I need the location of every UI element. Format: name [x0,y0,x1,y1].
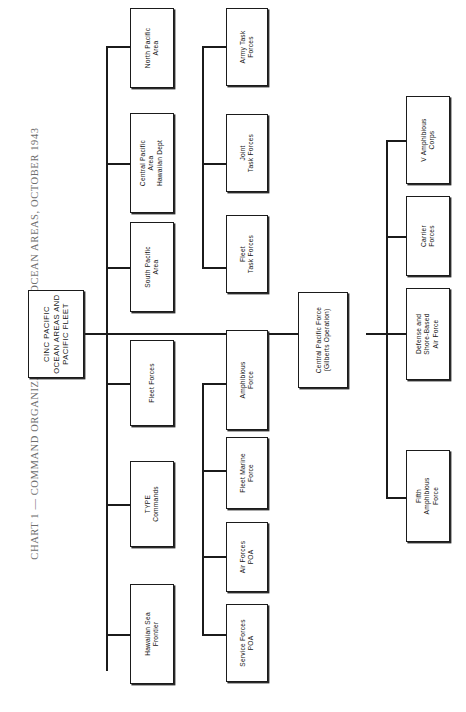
connector-spine-main [106,333,306,335]
connector-to-hawaiian-sea-frontier [106,634,130,636]
connector-to-service-forces-poa [202,634,226,636]
node-army-task-forces-label: Army Task Forces [239,31,256,64]
connector-to-fifth-amphibious-force [386,497,406,499]
connector-to-fleet-forces [106,383,130,385]
connector-to-carrier-forces [386,236,406,238]
node-fleet-forces[interactable]: Fleet Forces [130,340,174,426]
node-north-pacific-area-label: North Pacific Area [144,28,161,69]
connector-right-trunk [386,140,388,498]
node-fifth-amphibious-force-label: Fifth Amphibious Force [415,478,440,515]
node-amphibious-force-label: Amphibious Force [239,362,256,399]
node-joint-task-forces[interactable]: Joint Task Forces [226,114,268,192]
node-v-amphibious-corps[interactable]: V Amphibious Corps [406,96,450,184]
node-air-forces-poa[interactable]: Air Forces POA [226,522,268,592]
node-carrier-forces-label: Carrier Forces [420,225,437,247]
node-hawaiian-sea-frontier[interactable]: Hawaiian Sea Frontier [130,584,174,684]
connector-to-fleet-task-forces [202,267,226,269]
node-fleet-forces-label: Fleet Forces [148,363,156,403]
node-fleet-task-forces-label: Fleet Task Forces [239,235,256,273]
node-defense-shore-air-label: Defense and Shore-Based Air Force [415,313,440,354]
node-south-pacific-area[interactable]: South Pacific Area [130,222,174,312]
node-amphibious-force[interactable]: Amphibious Force [226,330,268,430]
node-defense-shore-air[interactable]: Defense and Shore-Based Air Force [406,288,450,380]
connector-to-central-pacific-area [106,163,130,165]
node-central-pacific-force[interactable]: Central Pacific Force (Gilberts Operatio… [298,292,348,388]
node-fleet-marine-force[interactable]: Fleet Marine Force [226,437,268,509]
connector-riser-upper [202,46,204,267]
connector-to-north-pacific-area [106,46,130,48]
connector-cpf-stem [366,333,388,335]
node-type-commands[interactable]: TYPE Commands [130,461,174,547]
node-north-pacific-area[interactable]: North Pacific Area [130,8,174,88]
node-root-label: CINC PACIFIC OCEAN AREAS AND PACIFIC FLE… [42,294,71,374]
node-fifth-amphibious-force[interactable]: Fifth Amphibious Force [406,450,450,542]
connector-main-trunk [106,46,108,671]
connector-to-fleet-marine-force [202,470,226,472]
node-service-forces-poa[interactable]: Service Forces POA [226,604,268,682]
connector-to-south-pacific-area [106,267,130,269]
connector-root-stem [84,333,108,335]
node-v-amphibious-corps-label: V Amphibious Corps [420,118,437,161]
node-joint-task-forces-label: Joint Task Forces [239,134,256,172]
node-army-task-forces[interactable]: Army Task Forces [226,8,268,86]
node-fleet-task-forces[interactable]: Fleet Task Forces [226,215,268,293]
node-south-pacific-area-label: South Pacific Area [144,246,161,288]
node-central-pacific-area-label: Central Pacific Area Hawaiian Dept [139,140,164,186]
node-air-forces-poa-label: Air Forces POA [239,541,256,574]
node-hawaiian-sea-frontier-label: Hawaiian Sea Frontier [144,612,161,656]
connector-to-v-amphibious-corps [386,140,406,142]
connector-to-type-commands [106,504,130,506]
connector-to-army-task-forces [202,46,226,48]
connector-to-amphibious-force [202,383,226,385]
connector-riser-lower [202,383,204,634]
connector-to-defense-shore-air [386,333,406,335]
node-fleet-marine-force-label: Fleet Marine Force [239,453,256,493]
node-service-forces-poa-label: Service Forces POA [239,619,256,666]
connector-to-joint-task-forces [202,163,226,165]
node-carrier-forces[interactable]: Carrier Forces [406,196,450,276]
node-central-pacific-force-label: Central Pacific Force (Gilberts Operatio… [315,307,332,373]
node-root[interactable]: CINC PACIFIC OCEAN AREAS AND PACIFIC FLE… [28,290,84,378]
node-central-pacific-area[interactable]: Central Pacific Area Hawaiian Dept [130,113,174,213]
connector-to-air-forces-poa [202,556,226,558]
node-type-commands-label: TYPE Commands [144,486,161,522]
